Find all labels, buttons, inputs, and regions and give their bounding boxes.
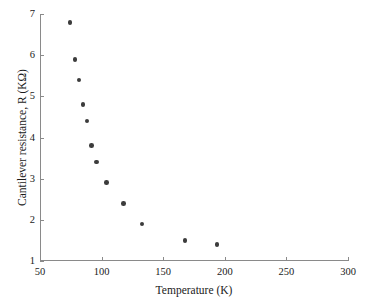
data-point — [73, 57, 78, 62]
data-point — [94, 160, 99, 165]
data-point — [77, 78, 82, 83]
x-tick-label: 150 — [155, 266, 171, 278]
data-point — [215, 242, 220, 247]
x-tick-label: 250 — [279, 266, 295, 278]
data-point — [140, 222, 145, 227]
y-tick-mark — [40, 55, 44, 56]
y-tick-label: 4 — [30, 132, 35, 144]
y-tick-mark — [40, 179, 44, 180]
x-tick-mark — [225, 257, 226, 261]
data-point — [81, 102, 86, 107]
y-tick-label: 1 — [30, 255, 35, 267]
y-tick-mark — [40, 261, 44, 262]
y-tick-mark — [40, 220, 44, 221]
y-tick-label: 6 — [30, 49, 35, 61]
data-point — [104, 180, 109, 185]
y-tick-mark — [40, 96, 44, 97]
data-point — [85, 119, 90, 124]
x-tick-label: 300 — [340, 266, 356, 278]
y-tick-mark — [40, 14, 44, 15]
x-tick-mark — [286, 257, 287, 261]
x-tick-label: 50 — [35, 266, 46, 278]
y-tick-mark — [40, 138, 44, 139]
y-axis-label: Cantilever resistance, R (KΩ) — [16, 14, 30, 261]
y-tick-label: 2 — [30, 214, 35, 226]
y-tick-label: 3 — [30, 173, 35, 185]
x-tick-label: 100 — [94, 266, 110, 278]
scatter-chart-figure: 50100150200250300 1234567 Temperature (K… — [0, 0, 365, 308]
x-tick-mark — [348, 257, 349, 261]
plot-area — [40, 14, 348, 261]
data-point — [89, 143, 94, 148]
data-point — [183, 238, 188, 243]
x-axis-ticks: 50100150200250300 — [40, 261, 348, 281]
y-tick-label: 5 — [30, 90, 35, 102]
x-tick-label: 200 — [217, 266, 233, 278]
x-axis-label: Temperature (K) — [40, 284, 348, 296]
data-points-layer — [41, 14, 348, 260]
x-tick-mark — [163, 257, 164, 261]
x-tick-mark — [102, 257, 103, 261]
data-point — [68, 20, 73, 25]
data-point — [121, 201, 126, 206]
y-tick-label: 7 — [30, 8, 35, 20]
